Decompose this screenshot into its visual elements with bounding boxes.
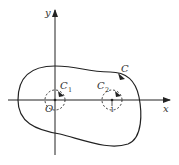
circle-c2-label: C bbox=[97, 80, 105, 91]
circle-c1-subscript: 1 bbox=[68, 86, 72, 94]
y-axis-label: y bbox=[44, 7, 51, 18]
origin-label: O bbox=[45, 103, 53, 114]
tick-label-one: 1 bbox=[110, 106, 114, 114]
curve-c-label: C bbox=[121, 63, 129, 74]
origin-point bbox=[54, 99, 57, 102]
contour-diagram: y x O C C 1 C 2 1 bbox=[0, 0, 179, 165]
circle-c1-label: C bbox=[60, 80, 68, 91]
x-axis-label: x bbox=[163, 103, 169, 114]
circle-c2-subscript: 2 bbox=[105, 86, 109, 94]
